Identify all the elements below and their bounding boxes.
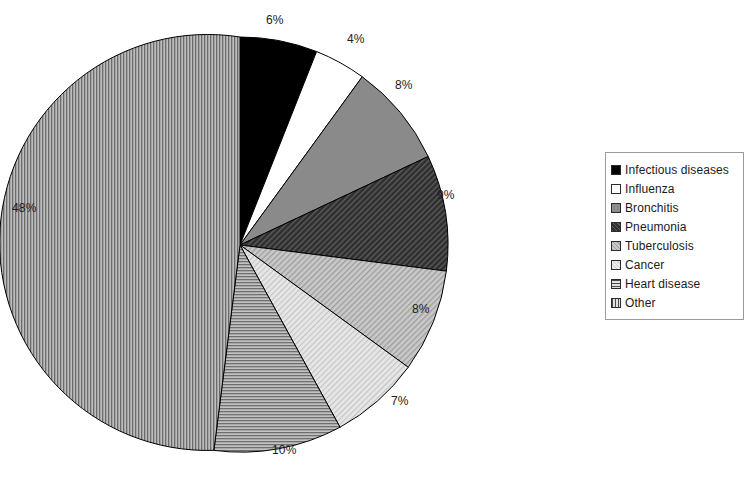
legend-swatch-pneumonia-icon	[611, 222, 621, 232]
legend-label-influenza: Influenza	[625, 182, 675, 196]
pie-chart-page: 6% 4% 8% 9% 8% 7% 10% 48% Infectious dis…	[0, 0, 754, 481]
legend-item-influenza[interactable]: Influenza	[611, 179, 743, 198]
slice-label-influenza: 4%	[347, 32, 365, 46]
legend-item-cancer[interactable]: Cancer	[611, 255, 743, 274]
legend-label-tuberculosis: Tuberculosis	[625, 239, 694, 253]
slice-label-other: 48%	[12, 201, 37, 215]
legend-label-pneumonia: Pneumonia	[625, 220, 687, 234]
legend-item-heart-disease[interactable]: Heart disease	[611, 274, 743, 293]
legend-swatch-other-icon	[611, 298, 621, 308]
slice-label-infectious-diseases: 6%	[266, 13, 284, 27]
legend: Infectious diseases Influenza Bronchitis…	[605, 152, 744, 320]
legend-label-cancer: Cancer	[625, 258, 664, 272]
legend-label-other: Other	[625, 296, 656, 310]
legend-label-infectious-diseases: Infectious diseases	[625, 163, 729, 177]
legend-swatch-heart-disease-icon	[611, 279, 621, 289]
legend-item-other[interactable]: Other	[611, 293, 743, 312]
legend-item-tuberculosis[interactable]: Tuberculosis	[611, 236, 743, 255]
legend-swatch-influenza-icon	[611, 184, 621, 194]
legend-swatch-cancer-icon	[611, 260, 621, 270]
legend-item-pneumonia[interactable]: Pneumonia	[611, 217, 743, 236]
slice-label-pneumonia: 9%	[437, 188, 455, 202]
slice-label-tuberculosis: 8%	[412, 302, 430, 316]
legend-swatch-infectious-diseases-icon	[611, 165, 621, 175]
legend-swatch-tuberculosis-icon	[611, 241, 621, 251]
pie-slice-other[interactable]	[0, 34, 240, 450]
slice-label-cancer: 7%	[391, 394, 409, 408]
legend-item-infectious-diseases[interactable]: Infectious diseases	[611, 160, 743, 179]
legend-swatch-bronchitis-icon	[611, 203, 621, 213]
slice-label-bronchitis: 8%	[395, 78, 413, 92]
legend-item-bronchitis[interactable]: Bronchitis	[611, 198, 743, 217]
slice-label-heart-disease: 10%	[272, 443, 297, 457]
legend-label-bronchitis: Bronchitis	[625, 201, 679, 215]
legend-label-heart-disease: Heart disease	[625, 277, 700, 291]
